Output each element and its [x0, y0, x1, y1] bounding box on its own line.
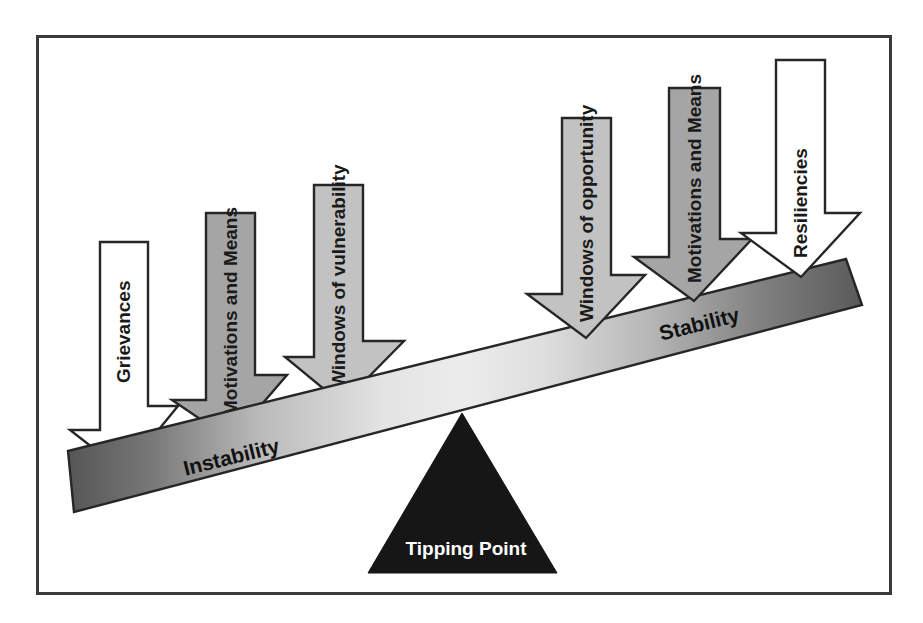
arrow-grievances-label: Grievances: [113, 281, 134, 383]
arrow-windows-vulnerability-label: Windows of vulnerability: [328, 164, 349, 388]
arrow-motivations-means-left-label: Motivations and Means: [220, 207, 241, 416]
arrow-motivations-means-right-label: Motivations and Means: [684, 74, 705, 283]
fulcrum-label: Tipping Point: [405, 538, 527, 559]
arrow-windows-opportunity-label: Windows of opportunity: [576, 104, 597, 322]
tipping-point-diagram: Grievances Motivations and Means Windows…: [0, 0, 923, 623]
arrow-resiliencies-label: Resiliencies: [790, 148, 811, 258]
diagram-canvas: Grievances Motivations and Means Windows…: [0, 0, 923, 623]
